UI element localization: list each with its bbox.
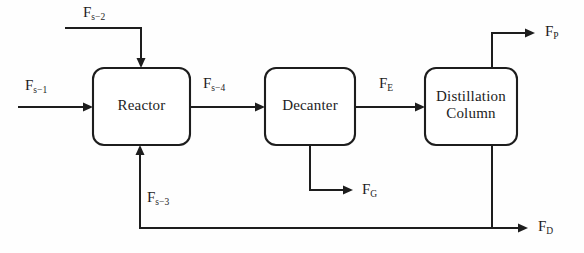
- stream-label-fs4-subscript: s−4: [211, 83, 225, 93]
- stream-label-fg-subscript: G: [370, 189, 377, 199]
- stream-line-fs1: [18, 103, 93, 112]
- stream-label-fd-subscript: D: [546, 226, 553, 236]
- unit-box-reactor: [93, 68, 190, 145]
- stream-line-fg: [310, 145, 353, 195]
- arrow-head-fs1: [83, 103, 93, 112]
- arrow-head-fp: [525, 29, 535, 38]
- stream-label-fp: FP: [545, 24, 559, 41]
- stream-line-fs2: [65, 28, 146, 68]
- flow-diagram-canvas: [0, 0, 584, 253]
- stream-label-fs4: Fs−4: [203, 76, 225, 93]
- stream-label-fs2: Fs−2: [83, 5, 105, 22]
- stream-label-fe-subscript: E: [387, 83, 393, 93]
- arrow-head-fg: [343, 186, 353, 195]
- stream-line-fd: [492, 224, 528, 233]
- stream-label-fs2-subscript: s−2: [91, 12, 105, 22]
- unit-box-decanter: [265, 68, 355, 145]
- stream-label-fs1: Fs−1: [25, 78, 47, 95]
- stream-label-fs3: Fs−3: [147, 190, 169, 207]
- arrow-head-fs2: [137, 58, 146, 68]
- stream-label-fe: FE: [379, 76, 393, 93]
- stream-line-fs3: [136, 145, 493, 228]
- stream-label-fs1-subscript: s−1: [33, 85, 47, 95]
- arrow-head-fe: [415, 103, 425, 112]
- stream-line-fp: [492, 29, 535, 69]
- stream-line-fe: [355, 103, 425, 112]
- unit-box-distillation-column: [425, 68, 517, 145]
- stream-line-fs4: [190, 103, 265, 112]
- stream-label-fd: FD: [538, 219, 553, 236]
- arrow-head-fs4: [255, 103, 265, 112]
- stream-label-fp-subscript: P: [553, 31, 558, 41]
- process-flow-diagram: Reactor Decanter Distillation Column Fs−…: [0, 0, 584, 253]
- arrow-head-fs3: [136, 145, 145, 155]
- stream-label-fs3-subscript: s−3: [155, 197, 169, 207]
- stream-label-fg: FG: [362, 182, 377, 199]
- arrow-head-fd: [518, 224, 528, 233]
